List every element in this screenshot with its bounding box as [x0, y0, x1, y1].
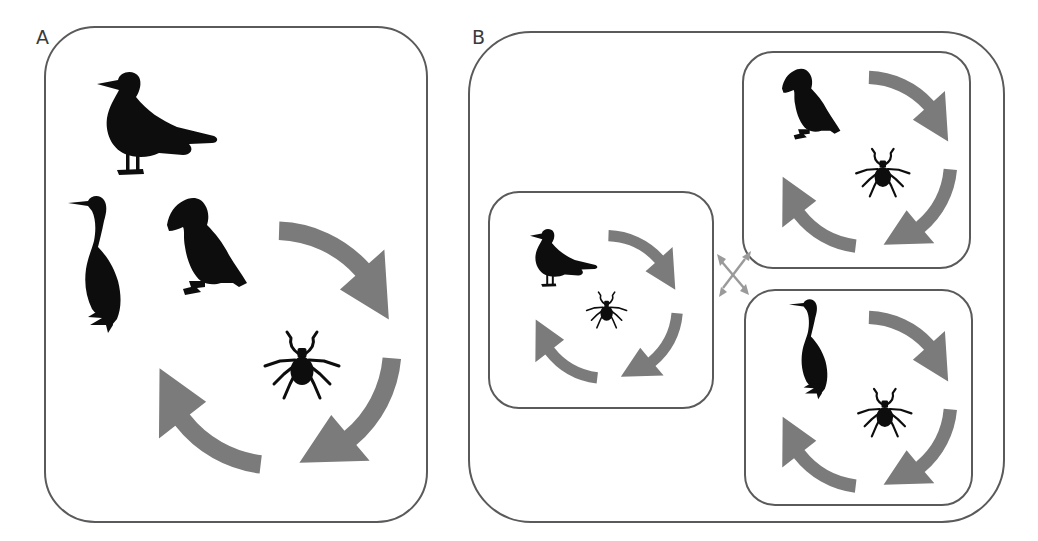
figure: A B [0, 0, 1038, 541]
tick-icon [587, 292, 627, 328]
tick-icon [856, 149, 909, 197]
puffin-icon [782, 69, 840, 140]
shag-icon [68, 196, 121, 333]
gull-icon [530, 229, 597, 287]
panel-a-label: A [36, 26, 49, 48]
gull-icon [97, 72, 217, 175]
shag-icon [789, 299, 827, 399]
subpopulation-shag [745, 290, 972, 505]
panel-b: B [469, 26, 1004, 522]
tick-icon [858, 389, 911, 437]
bidirectional-dispersal-arrows-icon [717, 251, 751, 297]
tick-icon [265, 332, 339, 398]
subpopulation-gull [489, 192, 713, 408]
panel-b-label: B [472, 26, 485, 48]
subpopulation-box [743, 52, 970, 268]
puffin-icon [167, 198, 247, 295]
subpopulation-puffin [743, 52, 970, 268]
subpopulation-box [745, 290, 972, 505]
panel-a: A [36, 26, 427, 522]
